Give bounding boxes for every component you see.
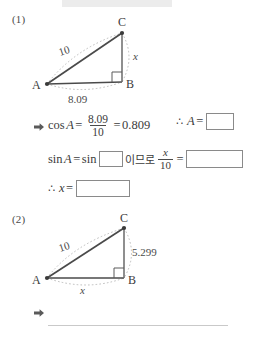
equals-sign-5: = [176,152,183,167]
angle-a-symbol-2: A [64,152,72,167]
figure-triangle-2: A B C 10 5.299 x [20,214,170,294]
equals-sign-6: = [66,181,73,196]
step-2-sin-equation: sin A = sin 이므로 x 10 = [48,147,244,171]
fraction-denominator-10: 10 [158,159,173,172]
conclusion-lhs-a: A [187,114,195,129]
answer-box-angle-a[interactable] [206,113,234,130]
therefore-symbol-2: ∴ [48,182,55,195]
vertex-dot-a-2 [45,276,49,280]
fraction-numerator-x: x [161,147,170,159]
cos-value: 0.809 [122,118,150,133]
vertex-label-a-1: A [32,78,41,92]
vertex-label-b-1: B [126,77,134,91]
step-1-cos-equation: cos A = 8.09 10 = 0.809 [33,113,150,138]
therefore-symbol-1: ∴ [176,115,183,128]
sin-function-label-lhs: sin [48,152,63,167]
worksheet-page: (1) A B C 10 8.09 x [0,0,277,339]
fraction-denominator: 10 [90,125,106,138]
fraction-809-over-10: 8.09 10 [86,113,110,138]
answer-box-x-over-10[interactable] [186,150,243,168]
side-label-bc-1: x [132,50,138,62]
conclusion-lhs-x: x [59,181,65,196]
fraction-x-over-10: x 10 [158,147,173,171]
korean-connector-imeuro: 이므로 [125,151,155,167]
figure-triangle-1: A B C 10 8.09 x [20,14,160,104]
side-label-ab-2: x [79,284,85,296]
cos-function-label: cos [48,118,65,133]
side-label-ac-2: 10 [57,239,72,254]
arrow-right-icon-2 [33,305,45,317]
right-angle-marker-2 [114,268,124,278]
sin-function-label-rhs: sin [82,152,97,167]
side-label-ab-1: 8.09 [68,93,88,105]
segment-ac-2 [47,228,124,278]
scan-artifact-band [62,0,172,7]
step-1-conclusion: ∴ A = [176,113,235,130]
vertex-dot-c-2 [122,226,126,230]
fraction-numerator: 8.09 [86,113,110,125]
problem-2-answer-area[interactable] [33,305,263,335]
right-angle-marker-1 [112,72,122,82]
vertex-label-a-2: A [32,273,41,287]
side-label-bc-2: 5.299 [132,246,157,258]
vertex-label-c-1: C [118,15,126,29]
segment-ac-1 [47,33,122,84]
angle-a-symbol: A [66,118,74,133]
vertex-label-c-2: C [120,211,128,225]
side-label-ac-1: 10 [57,43,72,58]
step-3-conclusion: ∴ x = [48,180,131,197]
equals-sign-3: = [196,114,203,129]
vertex-dot-a-1 [45,82,49,86]
arc-side-bc-1 [122,33,129,82]
answer-write-in-rule[interactable] [48,325,228,326]
vertex-label-b-2: B [128,273,136,287]
arrow-right-icon [33,121,45,133]
equals-sign-2: = [114,118,121,133]
segment-ab-1 [47,82,122,84]
vertex-dot-c-1 [120,31,124,35]
equals-sign-4: = [73,152,80,167]
arc-side-ab-2 [47,278,124,285]
answer-box-x-value[interactable] [76,180,130,197]
arc-side-bc-2 [124,228,132,278]
answer-box-sin-angle[interactable] [99,151,123,167]
equals-sign-1: = [75,118,82,133]
